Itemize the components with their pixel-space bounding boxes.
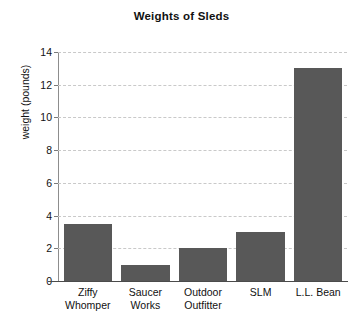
y-tick-label: 0 xyxy=(4,275,52,287)
bar-slot xyxy=(232,52,290,281)
bar[interactable] xyxy=(294,68,342,281)
x-tick-label: ZiffyWhomper xyxy=(59,286,117,312)
bar-slot xyxy=(59,52,117,281)
bar[interactable] xyxy=(236,232,284,281)
x-tick-label: SaucerWorks xyxy=(117,286,175,312)
bar-chart: Weights of Sleds weight (pounds) 0246810… xyxy=(0,0,363,327)
y-tick-label: 6 xyxy=(4,177,52,189)
y-tick-label: 10 xyxy=(4,111,52,123)
bar-slot xyxy=(174,52,232,281)
x-tick-label: OutdoorOutfitter xyxy=(174,286,232,312)
y-tick-label: 4 xyxy=(4,210,52,222)
bar[interactable] xyxy=(179,248,227,281)
x-axis-tick-labels: ZiffyWhomperSaucerWorksOutdoorOutfitterS… xyxy=(59,286,347,326)
y-tick-mark xyxy=(54,117,58,118)
x-axis-line xyxy=(48,281,348,282)
y-tick-mark xyxy=(54,216,58,217)
y-tick-label: 12 xyxy=(4,79,52,91)
x-tick-label: L.L. Bean xyxy=(289,286,347,299)
bar-slot xyxy=(117,52,175,281)
bar-series xyxy=(59,52,347,281)
y-tick-mark xyxy=(54,52,58,53)
y-tick-mark xyxy=(54,183,58,184)
y-tick-mark xyxy=(54,85,58,86)
bar[interactable] xyxy=(64,224,112,281)
y-tick-mark xyxy=(54,248,58,249)
y-tick-label: 8 xyxy=(4,144,52,156)
chart-title: Weights of Sleds xyxy=(0,10,363,22)
y-tick-label: 2 xyxy=(4,242,52,254)
bar[interactable] xyxy=(121,265,169,281)
bar-slot xyxy=(289,52,347,281)
y-tick-mark xyxy=(54,150,58,151)
x-tick-label: SLM xyxy=(232,286,290,299)
y-tick-label: 14 xyxy=(4,46,52,58)
